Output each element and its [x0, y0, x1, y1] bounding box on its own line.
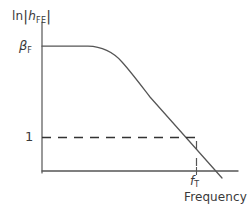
beta-subscript: F [27, 46, 32, 55]
y-axis-label-prefix: ln [12, 9, 23, 23]
x-axis-title: Frequency [184, 191, 247, 203]
y-axis-label-subscript: FE [36, 16, 46, 25]
plot-canvas [0, 0, 250, 209]
unity-gain-tick-label: 1 [25, 130, 33, 143]
gain-response-curve [42, 46, 222, 178]
ft-tick-label: fT [190, 175, 199, 189]
y-axis-label: ln|hFE| [12, 9, 51, 25]
y-axis-label-variable: h [28, 9, 36, 23]
ft-subscript: T [194, 180, 199, 189]
figure-container: ln|hFE| βF 1 fT Frequency [0, 0, 250, 209]
y-axis-label-bar-close: | [46, 8, 51, 24]
beta-f-tick-label: βF [19, 39, 32, 55]
